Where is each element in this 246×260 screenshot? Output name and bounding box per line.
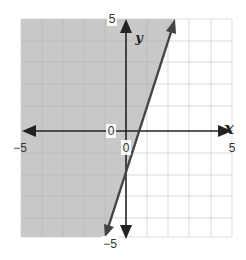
y-max-label: 5 [109, 12, 116, 26]
y-zero-label: 0 [108, 124, 115, 138]
x-zero-label: 0 [123, 141, 130, 155]
x-max-label: 5 [229, 141, 236, 155]
graph: 5 0 0 −5 5 −5 y x [0, 0, 246, 260]
x-min-label: −5 [13, 141, 27, 155]
x-axis-label: x [223, 119, 234, 138]
y-min-label: −5 [103, 237, 117, 251]
y-axis-label: y [134, 30, 144, 45]
